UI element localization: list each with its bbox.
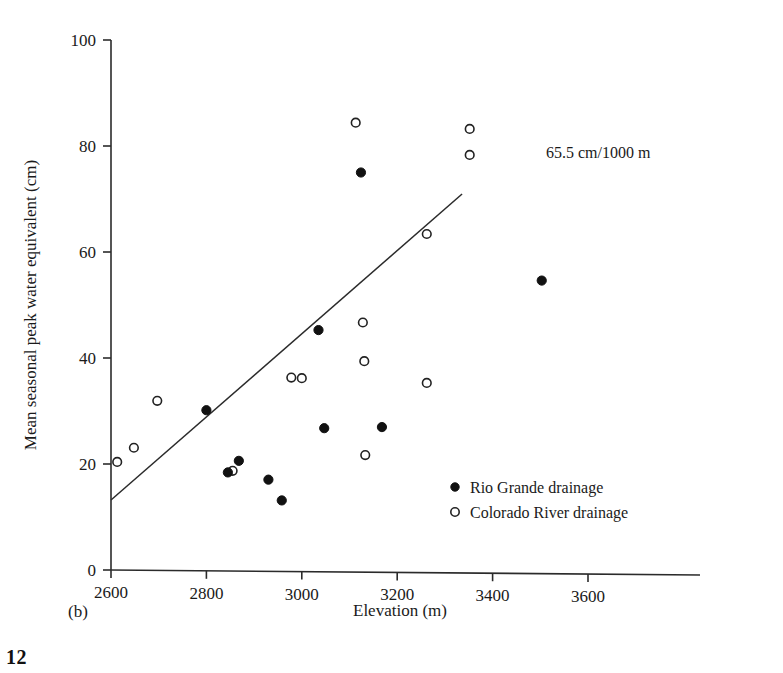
data-point: [465, 151, 474, 160]
data-point: [465, 125, 474, 134]
data-point: [320, 424, 329, 433]
data-point: [537, 276, 546, 285]
scatter-plot-svg: 020406080100 260028003000320034003600 El…: [0, 0, 783, 673]
x-tick-label: 2600: [94, 583, 128, 602]
data-point: [264, 475, 273, 484]
data-point: [377, 422, 386, 431]
data-point: [130, 443, 139, 452]
y-tick-label: 80: [79, 137, 96, 156]
y-tick-label: 60: [79, 243, 96, 262]
x-axis-title: Elevation (m): [353, 601, 447, 620]
legend-marker-colorado-river: [451, 508, 459, 516]
series-rio-grande-drainage: [202, 168, 547, 505]
page-number: 12: [6, 646, 27, 669]
data-point: [359, 318, 368, 327]
series-colorado-river-drainage: [113, 118, 474, 475]
legend-label-colorado-river: Colorado River drainage: [470, 504, 628, 522]
data-point: [360, 357, 369, 366]
x-tick-label: 2800: [189, 584, 223, 603]
x-axis-line: [111, 570, 700, 575]
y-tick-label: 20: [79, 455, 96, 474]
y-axis-title: Mean seasonal peak water equivalent (cm): [21, 160, 40, 450]
data-point: [351, 118, 360, 127]
data-point: [234, 456, 243, 465]
regression-line-group: [111, 194, 462, 500]
x-tick-label: 3400: [476, 586, 510, 605]
data-point: [298, 374, 307, 383]
data-point: [356, 168, 365, 177]
panel-label: (b): [68, 602, 88, 621]
legend-marker-rio-grande: [451, 483, 459, 491]
x-tick-label: 3600: [571, 587, 605, 606]
x-tick-label: 3000: [285, 585, 319, 604]
figure-panel: 020406080100 260028003000320034003600 El…: [0, 0, 783, 673]
y-tick-group: [103, 40, 111, 570]
data-point: [223, 468, 232, 477]
y-tick-label: 0: [88, 561, 97, 580]
legend: Rio Grande drainage Colorado River drain…: [451, 479, 628, 522]
axes-group: [111, 40, 700, 575]
data-point: [277, 496, 286, 505]
regression-line: [111, 194, 462, 500]
x-tick-label-group: 260028003000320034003600: [94, 583, 605, 606]
data-point: [314, 325, 323, 334]
data-point: [361, 451, 370, 460]
slope-annotation: 65.5 cm/1000 m: [546, 144, 651, 161]
y-tick-label: 40: [79, 349, 96, 368]
data-point: [113, 458, 122, 467]
y-tick-label: 100: [71, 31, 97, 50]
data-point: [202, 406, 211, 415]
y-tick-label-group: 020406080100: [71, 31, 97, 580]
data-point: [153, 396, 162, 405]
legend-label-rio-grande: Rio Grande drainage: [470, 479, 603, 497]
data-point: [422, 379, 431, 388]
data-point: [287, 373, 296, 382]
data-point: [422, 230, 431, 239]
